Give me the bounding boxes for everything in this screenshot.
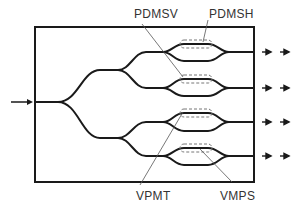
input-arrow-icon bbox=[11, 99, 33, 105]
output-arrow-icon bbox=[262, 154, 289, 159]
label-vpmt: VPMT bbox=[136, 190, 171, 202]
waveguide-diagram bbox=[0, 0, 301, 210]
leader-pdmsv bbox=[142, 24, 183, 77]
waveguide-tree bbox=[35, 52, 163, 156]
mzi-4 bbox=[163, 148, 254, 165]
label-pdmsh: PDMSH bbox=[209, 8, 254, 20]
label-vmps: VMPS bbox=[220, 190, 255, 202]
mzi-2 bbox=[163, 79, 254, 96]
leader-pdmsh bbox=[203, 20, 208, 42]
mzi-1 bbox=[163, 44, 254, 61]
output-arrow-icon bbox=[262, 50, 289, 55]
output-arrow-icon bbox=[262, 86, 289, 91]
output-arrow-icon bbox=[262, 120, 289, 125]
label-pdmsv: PDMSV bbox=[134, 8, 178, 20]
diagram-canvas: PDMSV PDMSH VPMT VMPS bbox=[0, 0, 301, 210]
output-arrows bbox=[262, 50, 289, 159]
